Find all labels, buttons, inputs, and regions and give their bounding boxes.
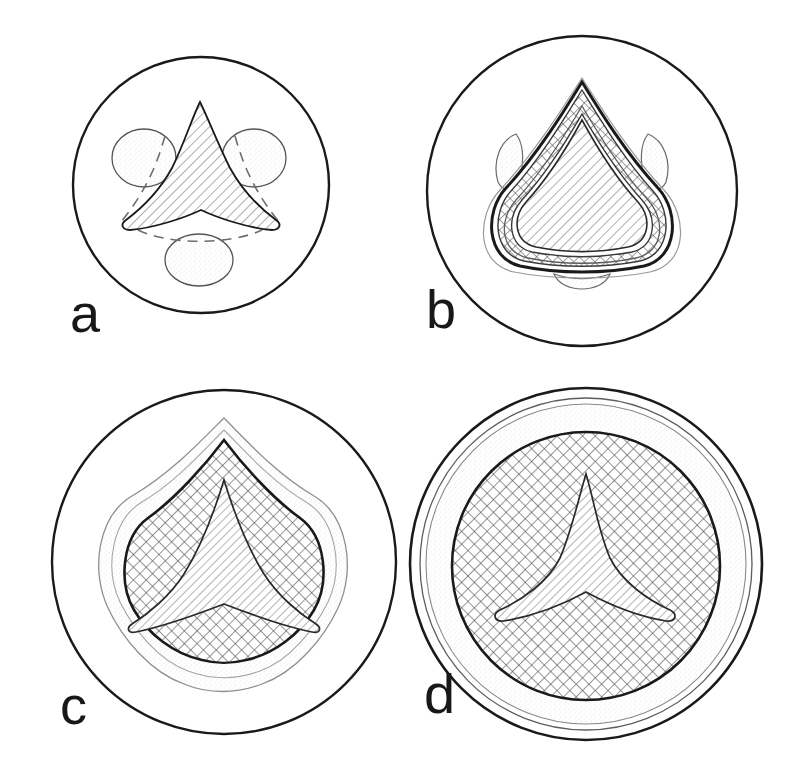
panel-a	[58, 40, 348, 330]
panel-label-b: b	[426, 282, 456, 336]
panel-b	[404, 28, 760, 368]
panel-c	[38, 382, 418, 754]
panel-label-a: a	[70, 286, 100, 340]
figure-root: a b	[0, 0, 797, 775]
panel-label-d: d	[424, 666, 455, 722]
panel-a-oval-bottom	[165, 234, 233, 286]
panel-label-c: c	[60, 678, 87, 732]
